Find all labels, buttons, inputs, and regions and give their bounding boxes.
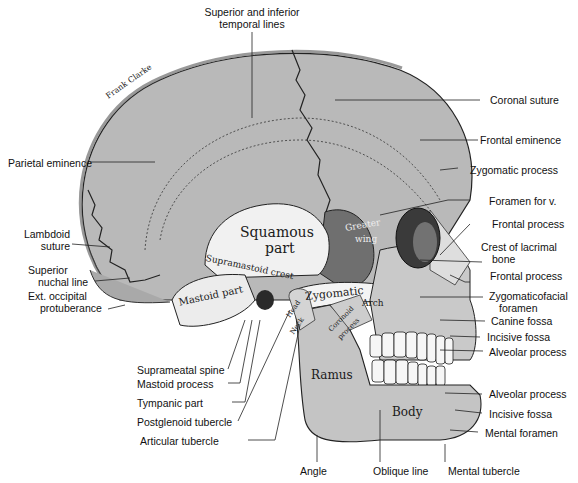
label-frontal-process-2: Frontal process	[490, 270, 562, 282]
label-part: part	[265, 240, 295, 256]
label-temporal-lines: Superior and inferior temporal lines	[190, 6, 314, 30]
label-mastoid-process: Mastoid process	[137, 378, 213, 390]
label-oblique-line: Oblique line	[373, 465, 428, 477]
label-wing: wing	[355, 234, 377, 244]
label-lambdoid-suture: Lambdoid suture	[22, 228, 70, 252]
label-foramen-for-v: Foramen for v.	[489, 195, 557, 207]
label-frontal-eminence: Frontal eminence	[480, 134, 561, 146]
label-tympanic-part: Tympanic part	[137, 397, 203, 409]
label-angle: Angle	[300, 465, 327, 477]
label-articular-tubercle: Articular tubercle	[140, 435, 219, 447]
label-ext-occipital-protuberance: Ext. occipital protuberance	[28, 290, 102, 314]
label-postglenoid-tubercle: Postglenoid tubercle	[137, 416, 232, 428]
label-zygomaticofacial-foramen: Zygomaticofacial foramen	[489, 290, 568, 314]
label-coronal-suture: Coronal suture	[490, 94, 559, 106]
label-crest-of-lacrimal-bone: Crest of lacrimal bone	[481, 241, 557, 265]
label-incisive-fossa-2: Incisive fossa	[489, 408, 552, 420]
label-frontal-process-1: Frontal process	[492, 218, 564, 230]
label-zygomatic-process: Zygomatic process	[470, 164, 558, 176]
label-canine-fossa: Canine fossa	[491, 315, 552, 327]
label-squamous: Squamous	[240, 224, 314, 240]
label-parietal-eminence: Parietal eminence	[8, 157, 92, 169]
label-mental-tubercle: Mental tubercle	[448, 465, 520, 477]
label-incisive-fossa-1: Incisive fossa	[487, 331, 550, 343]
label-superior-nuchal-line: Superior nuchal line	[28, 264, 88, 288]
label-alveolar-process-2: Alveolar process	[489, 388, 567, 400]
label-ramus: Ramus	[311, 368, 353, 382]
label-mental-foramen: Mental foramen	[485, 427, 558, 439]
label-alveolar-process-1: Alveolar process	[489, 346, 567, 358]
label-body: Body	[392, 405, 423, 419]
label-suprameatal-spine: Suprameatal spine	[137, 364, 225, 376]
skull-diagram: Frank Clarke Squamous part Greater wing …	[0, 0, 578, 483]
label-arch: Arch	[362, 298, 384, 308]
